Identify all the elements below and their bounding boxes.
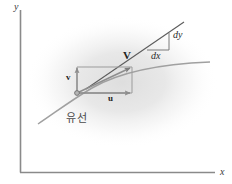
origin-point-dot: [75, 91, 80, 96]
streamline-caption: 유선: [66, 113, 87, 124]
vector-v-label: v: [66, 73, 71, 82]
x-axis-label: x: [220, 167, 224, 177]
diagram-canvas: [0, 0, 232, 184]
dy-label: dy: [173, 30, 182, 40]
background-blob: [26, 16, 218, 148]
streamline-vector-diagram: y x V v u dy dx 유선: [0, 0, 232, 184]
dx-label: dx: [151, 51, 160, 61]
y-axis-label: y: [14, 2, 18, 12]
vector-u-label: u: [108, 94, 113, 103]
vector-V-label: V: [123, 50, 131, 61]
